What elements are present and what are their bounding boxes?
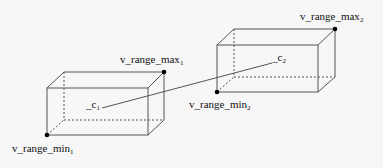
max-1-label: v_range_max1: [120, 54, 183, 67]
center-1-label: _c1: [86, 99, 100, 112]
max-2-label: v_range_max2: [300, 11, 363, 24]
min-2-label: v_range_min2: [189, 99, 251, 112]
max-point-1-dot: [162, 70, 167, 75]
min-1-label: v_range_min1: [12, 143, 74, 156]
max-point-2-dot: [333, 27, 338, 32]
min-point-1-dot: [45, 133, 50, 138]
center-2-label: _c2: [272, 52, 286, 65]
box-1: [47, 72, 164, 135]
min-point-2-dot: [215, 90, 220, 95]
